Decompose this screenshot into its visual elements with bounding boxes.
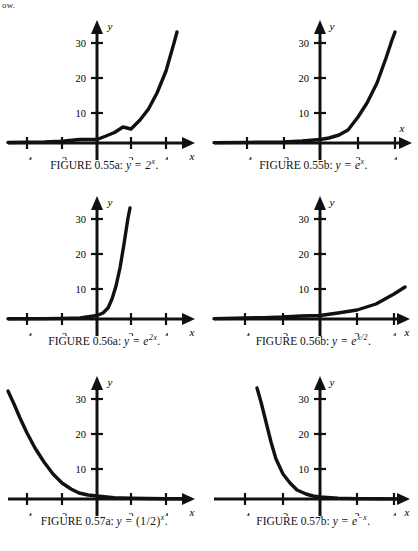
y-tick-label: 30: [299, 214, 310, 225]
caption-prefix: FIGURE 0.56a:: [48, 335, 121, 347]
figure-panel: –4 –2 2 4 10 20 30 x y FIGURE 0.57b: y =…: [209, 366, 418, 547]
equation-exponent: x/2: [357, 333, 368, 342]
figure-caption: FIGURE 0.55b: y = ex.: [209, 158, 418, 172]
y-axis-label: y: [329, 20, 335, 32]
y-tick-label: 30: [76, 38, 87, 49]
equation-lhs: y: [126, 159, 132, 171]
x-axis-arrow: [182, 493, 195, 505]
y-axis-arrow: [314, 20, 326, 34]
y-axis-arrow: [91, 20, 103, 34]
y-tick-label: 20: [299, 429, 310, 440]
y-tick-label: 20: [299, 73, 310, 84]
caption-prefix: FIGURE 0.56b:: [256, 335, 329, 347]
figure-caption: FIGURE 0.55a: y = 2x.: [0, 158, 209, 172]
y-tick-label: 10: [299, 284, 310, 295]
equation-lhs: y: [336, 159, 342, 171]
x-axis-arrow: [182, 137, 195, 149]
plot-svg-0: –4 –2 2 4 10 20 30 x y: [0, 10, 209, 160]
y-tick-label: 20: [76, 429, 87, 440]
y-axis-label: y: [107, 20, 113, 32]
equation-exponent: −x: [358, 513, 368, 522]
y-axis-arrow: [314, 376, 326, 390]
plot-svg-4: –4 –2 2 4 10 20 30 x y: [0, 366, 209, 516]
y-tick-label: 10: [76, 464, 87, 475]
y-axis-label: y: [107, 196, 113, 208]
curve: [214, 287, 405, 319]
caption-prefix: FIGURE 0.57b:: [256, 515, 329, 527]
x-axis-label: x: [399, 122, 405, 134]
y-tick-label: 30: [299, 394, 310, 405]
x-axis-arrow: [182, 313, 195, 325]
y-tick-label: 20: [76, 73, 87, 84]
x-axis-arrow: [397, 313, 410, 325]
equation-lhs: y: [124, 335, 130, 347]
plot-area: –4 –2 2 4 10 20 30 x y: [0, 10, 209, 160]
y-tick-label: 30: [76, 214, 87, 225]
curve: [257, 388, 397, 499]
plot-svg-2: –4 –2 2 4 10 20 30 x y: [0, 186, 209, 336]
figure-caption: FIGURE 0.56b: y = ex/2.: [209, 334, 418, 348]
plot-area: –4 –2 2 4 10 20 30 x y: [209, 366, 418, 516]
figure-grid: –4 –2 2 4 10 20 30 x y FIGURE 0.55a: y =…: [0, 10, 418, 551]
y-axis-label: y: [107, 376, 113, 388]
y-axis-arrow: [314, 196, 326, 210]
figure-panel: –4 –2 2 4 10 20 30 x y FIGURE 0.55b: y =…: [209, 10, 418, 186]
y-tick-label: 10: [76, 108, 87, 119]
plot-area: –4 –2 2 4 10 20 30 x y: [0, 366, 209, 516]
y-tick-label: 10: [76, 284, 87, 295]
equation-lhs: y: [333, 515, 339, 527]
plot-area: –4 –2 2 4 10 20 30 x y: [209, 186, 418, 336]
y-axis-label: y: [329, 376, 335, 388]
figure-caption: FIGURE 0.57a: y = (1/2)x.: [0, 514, 209, 528]
equation-exponent: x: [161, 513, 165, 522]
figure-panel: –4 –2 2 4 10 20 30 x y FIGURE 0.56b: y =…: [209, 186, 418, 366]
plot-svg-3: –4 –2 2 4 10 20 30 x y: [209, 186, 418, 336]
y-tick-label: 10: [299, 108, 310, 119]
plot-area: –4 –2 2 4 10 20 30 x y: [0, 186, 209, 336]
y-tick-label: 20: [76, 249, 87, 260]
y-axis-label: y: [329, 196, 335, 208]
y-tick-label: 20: [299, 249, 310, 260]
figure-caption: FIGURE 0.57b: y = e−x.: [209, 514, 418, 528]
y-tick-label: 30: [299, 38, 310, 49]
y-tick-label: 30: [76, 394, 87, 405]
plot-svg-5: –4 –2 2 4 10 20 30 x y: [209, 366, 418, 516]
figure-panel: –4 –2 2 4 10 20 30 x y FIGURE 0.57a: y =…: [0, 366, 209, 547]
figure-panel: –4 –2 2 4 10 20 30 x y FIGURE 0.55a: y =…: [0, 10, 209, 186]
y-axis-arrow: [91, 196, 103, 210]
equation-lhs: y: [332, 335, 338, 347]
x-axis-arrow: [399, 137, 412, 149]
figure-panel: –4 –2 2 4 10 20 30 x y FIGURE 0.56a: y =…: [0, 186, 209, 366]
caption-prefix: FIGURE 0.57a:: [41, 515, 114, 527]
figure-caption: FIGURE 0.56a: y = e2x.: [0, 334, 209, 348]
equation-lhs: y: [117, 515, 123, 527]
equation-exponent: 2x: [149, 333, 157, 342]
plot-area: –4 –2 2 4 10 20 30 x y: [209, 10, 418, 160]
curve: [8, 32, 177, 143]
plot-svg-1: –4 –2 2 4 10 20 30 x y: [209, 10, 418, 160]
y-axis-arrow: [91, 376, 103, 390]
equation-exponent: x: [360, 157, 364, 166]
equation-base: (1/2): [136, 515, 161, 527]
equation-exponent: x: [151, 157, 155, 166]
curve: [8, 391, 182, 499]
caption-prefix: FIGURE 0.55a:: [50, 159, 123, 171]
x-axis-arrow: [397, 493, 410, 505]
y-tick-label: 10: [299, 464, 310, 475]
curve: [8, 208, 130, 319]
caption-prefix: FIGURE 0.55b:: [259, 159, 332, 171]
